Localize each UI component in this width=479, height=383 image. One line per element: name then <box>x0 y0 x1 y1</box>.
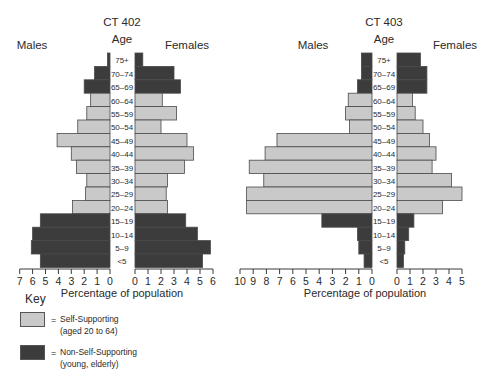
ct-402-bar-male <box>57 133 110 146</box>
ct-402-age-group-label: 65–69 <box>111 83 134 92</box>
ct-403-bar-male <box>277 133 372 146</box>
ct-403-age-group-label: 50–54 <box>373 123 396 132</box>
ct-402-bar-male <box>76 160 110 173</box>
ct-403-age-group-label: 45–49 <box>373 137 396 146</box>
ct-402-bar-male <box>31 241 110 254</box>
ct-402-bar-female <box>135 241 210 254</box>
ct-402-bar-male <box>87 174 110 187</box>
ct-402-bar-female <box>135 66 174 79</box>
axis-tick-label: 4 <box>316 275 322 287</box>
ct-403-age-group-label: 30–34 <box>373 177 396 186</box>
ct-402-bar-male <box>33 227 110 240</box>
ct-402-age-group-label: 20–24 <box>111 204 134 213</box>
legend-label-non-self-supporting: Non-Self-Supporting (young, elderly) <box>60 346 137 370</box>
ct-403-bar-female <box>397 160 432 173</box>
ct-403-bar-female <box>397 241 405 254</box>
ct-403-bar-male <box>361 66 372 79</box>
ct-402-bar-female <box>135 200 168 213</box>
ct-402-age-group-label: 60–64 <box>111 97 134 106</box>
ct-403-bar-male <box>322 214 372 227</box>
ct-402-age-group-label: 10–14 <box>111 231 134 240</box>
ct-403-bar-male <box>346 107 372 120</box>
axis-tick-label: 2 <box>420 275 426 287</box>
ct-403-age-group-label: <5 <box>379 257 389 266</box>
legend-label-line2: (aged 20 to 64) <box>60 325 119 337</box>
ct-402-bar-male <box>91 93 110 106</box>
ct-402-bar-male <box>78 120 110 133</box>
axis-tick-label: 4 <box>55 275 61 287</box>
ct-402-bar-female <box>135 214 186 227</box>
ct-402-age-group-label: 35–39 <box>111 164 134 173</box>
ct-402-bar-male <box>71 147 110 160</box>
axis-tick-label: 6 <box>210 275 216 287</box>
axis-tick-label: 3 <box>68 275 74 287</box>
ct-403-age-group-label: 55–59 <box>373 110 396 119</box>
axis-tick-label: 1 <box>356 275 362 287</box>
ct-403-age-group-label: 40–44 <box>373 150 396 159</box>
ct-402-bar-female <box>135 187 166 200</box>
ct-403-bar-male <box>264 174 372 187</box>
axis-tick-label: 4 <box>184 275 190 287</box>
ct-403-bar-male <box>247 200 372 213</box>
axis-tick-label: 5 <box>197 275 203 287</box>
axis-tick-label: 0 <box>369 275 375 287</box>
legend-label-line2: (young, elderly) <box>60 358 137 370</box>
ct-402-bar-female <box>135 174 168 187</box>
ct-402-age-group-label: 50–54 <box>111 123 134 132</box>
axis-tick-label: 7 <box>277 275 283 287</box>
ct-403-females-label: Females <box>433 39 477 51</box>
legend-title: Key <box>25 292 46 306</box>
ct-402-age-group-label: 75+ <box>115 56 129 65</box>
ct-403-bar-female <box>397 200 443 213</box>
ct-402-age-label: Age <box>112 33 132 45</box>
ct-402-x-axis-label: Percentage of population <box>61 287 183 299</box>
ct-403-bar-male <box>350 120 372 133</box>
axis-tick-label: 10 <box>234 275 246 287</box>
ct-403-bar-male <box>249 160 372 173</box>
ct-402-age-group-label: 55–59 <box>111 110 134 119</box>
ct-402-bar-male <box>84 80 110 93</box>
ct-403-bar-female <box>397 227 409 240</box>
ct-403-bar-female <box>397 80 427 93</box>
axis-tick-label: 2 <box>343 275 349 287</box>
ct-402-bar-male <box>40 254 110 267</box>
axis-tick-label: 5 <box>303 275 309 287</box>
ct-403-bar-female <box>397 254 404 267</box>
ct-402-bar-male <box>40 214 110 227</box>
ct-402-bar-female <box>135 93 162 106</box>
ct-403-age-label: Age <box>374 33 394 45</box>
axis-tick-label: 5 <box>43 275 49 287</box>
axis-tick-label: 9 <box>250 275 256 287</box>
legend-label-line1: Non-Self-Supporting <box>60 346 137 358</box>
axis-tick-label: 0 <box>394 275 400 287</box>
ct-403-bar-female <box>397 66 427 79</box>
axis-tick-label: 3 <box>171 275 177 287</box>
axis-tick-label: 5 <box>459 275 465 287</box>
ct-403-bar-male <box>364 254 372 267</box>
axis-tick-label: 1 <box>145 275 151 287</box>
ct-403-bar-female <box>397 187 462 200</box>
axis-tick-label: 0 <box>107 275 113 287</box>
ct-403-bar-male <box>348 93 372 106</box>
axis-tick-label: 2 <box>81 275 87 287</box>
ct-403-bar-female <box>397 107 415 120</box>
ct-403-bar-female <box>397 147 436 160</box>
legend-label-line1: Self-Supporting <box>60 313 119 325</box>
ct-402-bar-male <box>95 66 110 79</box>
axis-tick-label: 1 <box>407 275 413 287</box>
ct-403-bar-male <box>265 147 372 160</box>
ct-402-age-group-label: 25–29 <box>111 190 134 199</box>
ct-403-bar-male <box>357 80 372 93</box>
ct-403-bar-male <box>357 227 372 240</box>
axis-tick-label: 1 <box>94 275 100 287</box>
ct-402-bar-female <box>135 147 194 160</box>
ct-403-age-group-label: 65–69 <box>373 83 396 92</box>
ct-402-bar-female <box>135 160 184 173</box>
ct-402-bar-female <box>135 133 187 146</box>
ct-403-bar-male <box>359 241 372 254</box>
ct-402-age-group-label: 40–44 <box>111 150 134 159</box>
ct-403-title: CT 403 <box>365 16 403 28</box>
ct-402-age-group-label: 70–74 <box>111 70 134 79</box>
ct-403-bar-female <box>397 120 423 133</box>
ct-403-age-group-label: 10–14 <box>373 231 396 240</box>
